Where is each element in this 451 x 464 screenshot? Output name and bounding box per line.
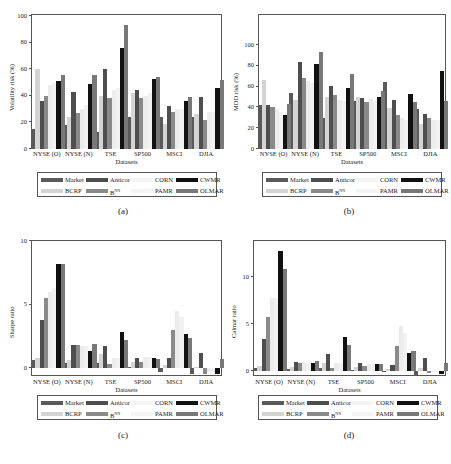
legend-label: CWMR [200,176,221,183]
bar [283,269,287,371]
legend-label: CWMR [421,399,442,406]
legend-swatch [266,178,288,182]
y-tick-label: 0 [234,145,254,152]
x-tick-label: DJIA [186,378,226,385]
bar [414,371,418,375]
y-axis-label: Calmar ratio [230,305,237,338]
y-tick-mark [256,86,259,87]
legend: MarketAnticorCORNCWMRBCRPBNNPAMROLMAR [37,172,217,197]
y-tick-mark [256,106,259,107]
legend-swatch [86,401,108,405]
bar [382,371,386,372]
bar [423,358,427,371]
legend-swatch [41,401,63,405]
y-tick-mark [29,121,32,122]
y-tick-label: 20 [7,118,27,125]
bar [319,52,323,149]
bar [156,359,160,368]
bar [439,371,443,374]
y-tick-mark [256,148,259,149]
x-tick-label: DJIA [410,150,450,157]
bar [220,359,224,368]
x-axis-label: Datasets [87,386,167,393]
y-axis-label: Sharpe ratio [8,306,15,338]
bar [379,364,383,371]
bar [199,353,203,368]
legend-swatch [176,401,198,405]
bar [315,361,319,371]
bar [381,91,385,149]
legend-label: Anticor [331,399,351,406]
panel-caption: (c) [103,430,143,440]
legend-swatch [352,401,374,405]
legend-label: BNN [331,410,341,419]
legend-swatch [131,178,153,182]
y-tick-mark [251,276,254,277]
legend-swatch [356,178,378,182]
y-tick-mark [29,148,32,149]
legend-label: CORN [155,399,173,406]
legend-label: BCRP [286,410,303,417]
bar [61,264,65,368]
legend-label: CORN [155,176,173,183]
y-tick-mark [29,367,32,368]
legend-label: PAMR [155,187,173,194]
legend-label: OLMAR [421,410,444,417]
legend-swatch [311,189,333,193]
legend-label-superscript: NN [114,411,120,416]
legend-label-superscript: NN [114,188,120,193]
panel-caption: (a) [103,206,143,216]
plot-area [31,240,222,376]
bar [444,363,448,371]
bar [287,104,291,149]
y-axis-label: MDD risk (%) [232,73,239,111]
x-axis-label: Datasets [87,158,167,165]
legend: MarketAnticorCORNCWMRBCRPBNNPAMROLMAR [258,395,438,420]
plot-area [253,240,446,376]
y-tick-mark [256,65,259,66]
bar [190,368,194,374]
legend-swatch [86,178,108,182]
bar [158,368,162,372]
legend-swatch [352,412,374,416]
legend-swatch [307,412,329,416]
panel-caption: (d) [329,430,369,440]
legend-label: Anticor [110,176,130,183]
legend-label: OLMAR [425,187,448,194]
legend-label: CWMR [200,399,221,406]
bar [350,74,354,149]
legend-swatch [401,189,423,193]
y-tick-mark [29,304,32,305]
x-tick-label: DJIA [410,378,450,385]
legend-label: Anticor [110,399,130,406]
legend-label: PAMR [376,410,394,417]
y-tick-mark [251,370,254,371]
legend-label: BNN [335,187,345,196]
legend-swatch [41,412,63,416]
legend-label: BCRP [290,187,307,194]
legend-swatch [176,178,198,182]
plot-area [31,14,222,148]
legend-swatch [86,412,108,416]
bar [347,345,351,371]
y-tick-label: 10 [229,273,249,280]
y-tick-mark [29,15,32,16]
legend-swatch [356,189,378,193]
y-tick-mark [29,240,32,241]
legend-label: PAMR [380,187,398,194]
y-tick-label: 100 [234,41,254,48]
bar [124,340,128,368]
y-tick-label: 0 [7,145,27,152]
bar [413,102,417,149]
bar [220,80,224,149]
legend-swatch [307,401,329,405]
legend-swatch [397,401,419,405]
bar [188,338,192,368]
legend-swatch [311,178,333,182]
legend-swatch [397,412,419,416]
bar [411,351,415,371]
bar [215,368,219,374]
y-tick-label: 0 [7,364,27,371]
legend-label: Market [290,176,309,183]
plot-area [258,14,446,148]
